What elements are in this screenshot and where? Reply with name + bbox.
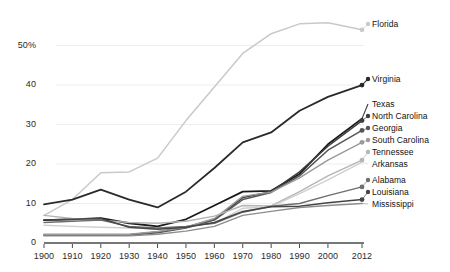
y-axis-tick-label: 40 <box>4 79 36 89</box>
legend-label-alabama: Alabama <box>372 175 406 185</box>
y-axis-tick-label: 50% <box>4 40 36 50</box>
series-line-tennessee <box>44 160 362 223</box>
legend-label-florida: Florida <box>372 19 398 29</box>
y-axis-tick-label: 10 <box>4 198 36 208</box>
legend-marker-tennessee <box>366 150 370 154</box>
legend-label-louisiana: Louisiana <box>372 187 409 197</box>
endpoint-marker-georgia <box>360 128 365 133</box>
legend-label-arkansas: Arkansas <box>372 159 408 169</box>
legend-label-mississippi: Mississippi <box>372 199 414 209</box>
y-axis-tick-label: 20 <box>4 158 36 168</box>
legend-marker-south-carolina <box>366 138 370 142</box>
legend-label-texas: Texas <box>372 99 394 109</box>
legend-label-georgia: Georgia <box>372 123 403 133</box>
legend-marker-north-carolina <box>366 114 370 118</box>
legend-marker-virginia <box>366 77 370 81</box>
y-axis-tick-label: 30 <box>4 119 36 129</box>
legend-marker-georgia <box>366 126 370 130</box>
legend-label-north-carolina: North Carolina <box>372 111 428 121</box>
series-line-texas <box>44 119 362 227</box>
legend-marker-florida <box>366 22 370 26</box>
legend-label-tennessee: Tennessee <box>372 147 414 157</box>
legend-marker-louisiana <box>366 190 370 194</box>
line-chart: 01020304050% 190019101920193019401950196… <box>0 0 450 272</box>
legend-label-south-carolina: South Carolina <box>372 135 429 145</box>
x-axis-tick-label: 2012 <box>342 251 382 261</box>
legend-label-virginia: Virginia <box>372 74 401 84</box>
series-line-virginia <box>44 85 362 207</box>
y-axis-tick-label: 0 <box>4 237 36 247</box>
legend-marker-alabama <box>366 178 370 182</box>
